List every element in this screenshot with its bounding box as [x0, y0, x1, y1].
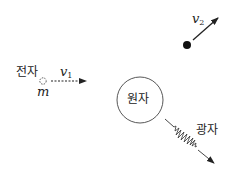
scattered-electron [183, 41, 191, 49]
velocity-v2-label: v2 [192, 12, 204, 27]
photon-tail-line [165, 119, 174, 127]
atom-label: 원자 [127, 93, 149, 105]
diagram-canvas: 전자 v1 m v2 원자 광자 [0, 0, 235, 177]
photon-label: 광자 [196, 124, 218, 136]
velocity-v1-label: v1 [60, 65, 72, 80]
electron-mass-label: m [37, 85, 49, 98]
photon-direction-arrow [198, 150, 214, 163]
v1-subscript: 1 [67, 71, 72, 80]
v2-subscript: 2 [199, 18, 204, 27]
electron-label: 전자 [16, 66, 38, 78]
photon-wave-packet [174, 126, 197, 147]
